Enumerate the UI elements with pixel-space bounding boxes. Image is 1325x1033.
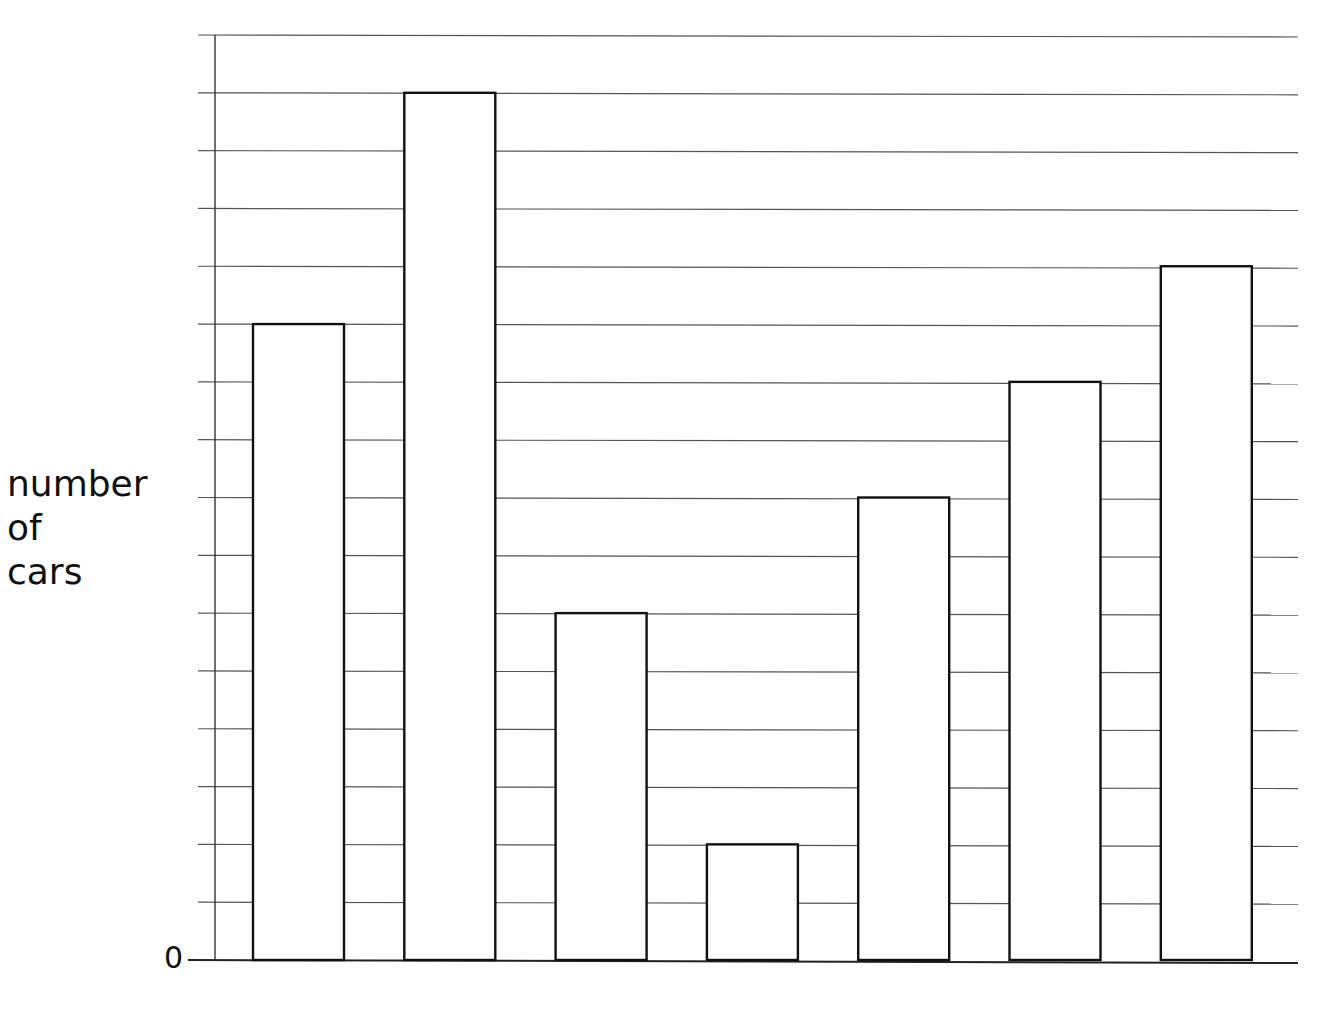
gridline	[198, 151, 1298, 153]
bar	[1010, 382, 1101, 960]
bar	[253, 324, 344, 960]
gridline	[198, 208, 1298, 210]
gridline	[198, 729, 1298, 731]
gridline	[198, 382, 1298, 384]
bar	[858, 498, 949, 961]
bar	[404, 93, 495, 960]
gridline	[198, 671, 1298, 673]
gridline	[198, 35, 1298, 37]
gridline	[198, 498, 1298, 500]
bar-chart-plot	[0, 0, 1325, 1033]
gridline	[198, 440, 1298, 442]
gridline	[198, 787, 1298, 789]
gridline	[198, 266, 1298, 268]
bar	[556, 613, 647, 960]
gridline	[198, 324, 1298, 326]
gridline	[198, 613, 1298, 615]
gridline	[198, 555, 1298, 557]
bar	[707, 844, 798, 960]
gridline	[198, 93, 1298, 95]
bar	[1161, 266, 1252, 960]
